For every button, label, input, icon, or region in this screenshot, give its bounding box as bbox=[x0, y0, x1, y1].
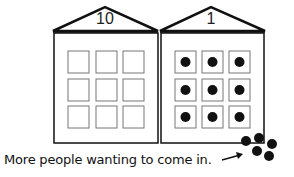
building-label-right: 1 bbox=[191, 10, 231, 28]
waiting-people bbox=[241, 133, 277, 161]
hotel-diagram bbox=[0, 0, 294, 177]
caption: More people wanting to come in. bbox=[4, 152, 212, 167]
windows-left bbox=[68, 51, 144, 128]
building-label-left: 10 bbox=[85, 10, 125, 28]
arrow-icon bbox=[222, 152, 243, 160]
